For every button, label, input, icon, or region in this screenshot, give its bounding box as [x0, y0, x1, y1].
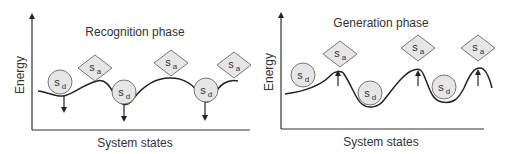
- state-sd-2: s d: [358, 81, 382, 105]
- svg-text:d: d: [62, 82, 66, 91]
- svg-text:s: s: [438, 81, 444, 93]
- svg-text:s: s: [297, 69, 303, 81]
- state-sa-3: s a: [217, 52, 251, 78]
- svg-text:s: s: [118, 86, 124, 98]
- x-axis-label: System states: [343, 135, 418, 149]
- panel-title: Recognition phase: [85, 25, 185, 39]
- svg-text:a: a: [420, 47, 425, 56]
- svg-text:a: a: [480, 47, 485, 56]
- state-sa-2: s a: [154, 50, 188, 76]
- panel-title: Generation phase: [333, 16, 429, 30]
- svg-text:s: s: [364, 87, 370, 99]
- svg-text:s: s: [472, 41, 478, 53]
- state-sa-2: s a: [401, 35, 435, 61]
- svg-text:s: s: [165, 56, 171, 68]
- svg-text:d: d: [126, 92, 130, 101]
- state-sa-1: s a: [78, 55, 112, 81]
- generation-panel: Generation phase System states Energy s …: [262, 15, 495, 149]
- y-axis-label: Energy: [262, 53, 276, 91]
- svg-text:d: d: [446, 87, 450, 96]
- svg-text:s: s: [89, 61, 95, 73]
- state-sa-1: s a: [323, 41, 357, 67]
- state-sa-3: s a: [461, 35, 495, 61]
- svg-text:a: a: [236, 64, 241, 73]
- energy-landscape-diagram: Recognition phase System states Energy s…: [0, 0, 514, 154]
- svg-text:a: a: [173, 62, 178, 71]
- svg-text:a: a: [342, 53, 347, 62]
- svg-text:s: s: [412, 41, 418, 53]
- svg-text:s: s: [54, 76, 60, 88]
- state-sd-1: s d: [48, 70, 72, 94]
- svg-text:s: s: [200, 84, 206, 96]
- svg-text:d: d: [372, 93, 376, 102]
- recognition-panel: Recognition phase System states Energy s…: [13, 16, 251, 150]
- svg-text:a: a: [97, 67, 102, 76]
- y-axis-label: Energy: [13, 56, 27, 94]
- state-sd-2: s d: [112, 80, 136, 104]
- state-sd-1: s d: [291, 63, 315, 87]
- state-sd-3: s d: [432, 75, 456, 99]
- svg-text:s: s: [334, 47, 340, 59]
- energy-curve: [285, 68, 492, 107]
- x-axis-label: System states: [97, 136, 172, 150]
- svg-text:d: d: [305, 75, 309, 84]
- state-sd-3: s d: [194, 78, 218, 102]
- svg-text:s: s: [228, 58, 234, 70]
- svg-text:d: d: [208, 90, 212, 99]
